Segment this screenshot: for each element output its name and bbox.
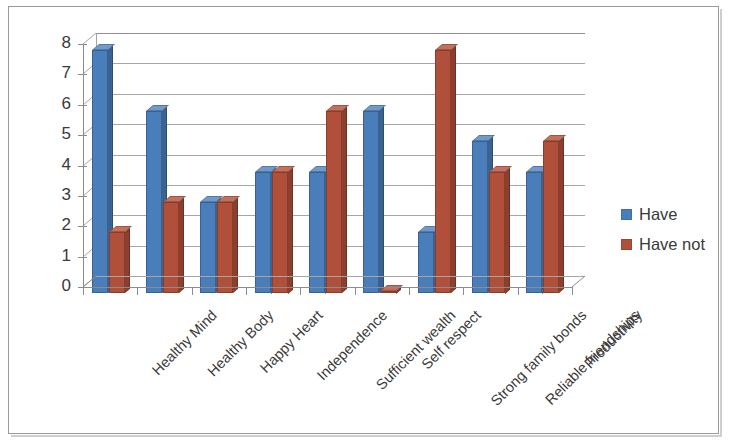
y-axis-tick: [78, 135, 87, 136]
y-axis-label: 6: [35, 95, 71, 112]
bar-side-face: [125, 228, 130, 293]
floor-right-edge: [572, 276, 585, 287]
y-axis-tick: [78, 257, 87, 258]
y-axis-tick: [78, 166, 87, 167]
legend-item-have-not[interactable]: Have not: [621, 229, 721, 259]
gridline: [96, 94, 585, 95]
bar-side-face: [379, 107, 384, 293]
bar-side-face: [451, 46, 456, 293]
bar-front-face: [526, 172, 542, 294]
bar-front-face: [418, 232, 434, 293]
legend-item-have[interactable]: Have: [621, 199, 721, 229]
bar-front-face: [309, 172, 325, 294]
x-axis-tick: [518, 287, 519, 295]
bar-front-face: [109, 232, 125, 293]
bar-have-not-happy-heart[interactable]: [217, 196, 239, 298]
bar-have-not-productivity[interactable]: [543, 135, 565, 298]
legend-swatch-have: [621, 209, 632, 220]
y-axis-label: 3: [35, 186, 71, 203]
bar-side-face: [505, 167, 510, 293]
x-axis-tick: [463, 287, 464, 295]
bar-front-face: [472, 141, 488, 293]
category-label-strong-family-bonds: Strong family bonds: [488, 307, 590, 409]
x-axis-tick: [300, 287, 301, 295]
bar-front-face: [92, 50, 108, 293]
floor-back-edge: [96, 276, 585, 277]
bar-front-face: [217, 202, 233, 293]
gridline: [96, 33, 585, 34]
bar-front-face: [326, 111, 342, 293]
legend-swatch-have-not: [621, 239, 632, 250]
y-axis-tick: [78, 105, 87, 106]
bar-have-not-sufficient-wealth[interactable]: [326, 105, 348, 298]
floor-left-edge: [83, 276, 96, 287]
x-axis-tick: [83, 287, 84, 295]
y-axis-tick: [78, 44, 87, 45]
bar-front-face: [200, 202, 216, 293]
bar-front-face: [163, 202, 179, 293]
bar-have-not-strong-family-bonds[interactable]: [435, 44, 457, 298]
bar-front-face: [489, 172, 505, 294]
bar-side-face: [179, 198, 184, 293]
bar-front-face: [435, 50, 451, 293]
bar-have-not-healthy-body[interactable]: [163, 196, 185, 298]
x-axis-tick: [246, 287, 247, 295]
y-axis-label: 2: [35, 216, 71, 233]
gridline: [96, 63, 585, 64]
bar-have-not-reliable-friendships[interactable]: [489, 166, 511, 299]
y-axis-label: 1: [35, 247, 71, 264]
bar-front-face: [146, 111, 162, 293]
y-axis-tick: [78, 74, 87, 75]
bar-front-face: [272, 172, 288, 294]
legend-label-have-not: Have not: [639, 235, 705, 254]
chart-frame: 012345678 Healthy MindHealthy BodyHappy …: [8, 6, 719, 434]
y-axis-label: 7: [35, 64, 71, 81]
bar-front-face: [255, 172, 271, 294]
bar-side-face: [288, 167, 293, 293]
x-axis-tick: [137, 287, 138, 295]
y-axis-tick: [78, 196, 87, 197]
legend-label-have: Have: [639, 205, 678, 224]
category-label-productivity: Productivity: [581, 307, 645, 371]
y-axis-label: 0: [35, 277, 71, 294]
bar-front-face: [363, 111, 379, 293]
bar-side-face: [559, 137, 564, 293]
bar-front-face: [380, 291, 396, 294]
x-axis-tick: [355, 287, 356, 295]
y-axis-label: 4: [35, 156, 71, 173]
y-axis-label: 8: [35, 34, 71, 51]
y-axis-label: 5: [35, 125, 71, 142]
bar-side-face: [342, 107, 347, 293]
x-axis-line: [83, 287, 572, 288]
bar-side-face: [233, 198, 238, 293]
x-axis-tick: [572, 287, 573, 295]
x-axis-tick: [192, 287, 193, 295]
bar-front-face: [543, 141, 559, 293]
bar-have-self-respect[interactable]: [363, 105, 385, 298]
y-axis-tick: [78, 226, 87, 227]
chart-legend: Have Have not: [621, 199, 721, 259]
gridline-connector: [83, 33, 96, 44]
bar-have-not-independence[interactable]: [272, 166, 294, 299]
x-axis-tick: [409, 287, 410, 295]
